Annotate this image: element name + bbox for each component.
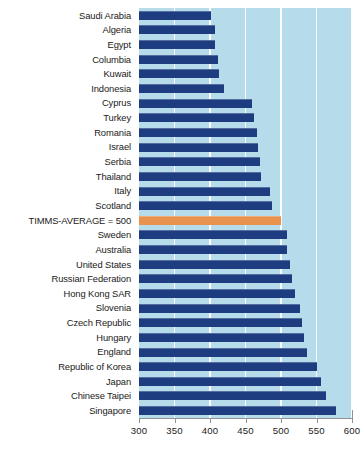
category-label: Israel bbox=[0, 140, 136, 155]
x-axis-tick bbox=[317, 418, 318, 423]
bar-row bbox=[139, 169, 352, 184]
bar-row bbox=[139, 52, 352, 67]
bar-row bbox=[139, 37, 352, 52]
category-label: Kuwait bbox=[0, 67, 136, 82]
category-label: Japan bbox=[0, 374, 136, 389]
category-label: Hungary bbox=[0, 330, 136, 345]
bar bbox=[139, 172, 261, 181]
bar-row bbox=[139, 67, 352, 82]
x-axis-tick-label: 500 bbox=[273, 425, 289, 436]
category-label: Slovenia bbox=[0, 301, 136, 316]
bar bbox=[139, 40, 215, 49]
bar-row bbox=[139, 301, 352, 316]
category-label: Italy bbox=[0, 184, 136, 199]
category-label: Chinese Taipei bbox=[0, 389, 136, 404]
bar-row bbox=[139, 228, 352, 243]
bar-row bbox=[139, 110, 352, 125]
bar bbox=[139, 230, 287, 239]
category-label: England bbox=[0, 345, 136, 360]
x-axis-tick-label: 300 bbox=[131, 425, 147, 436]
bar bbox=[139, 406, 336, 415]
x-axis-tick-label: 350 bbox=[166, 425, 182, 436]
bar-row bbox=[139, 403, 352, 418]
bar bbox=[139, 69, 219, 78]
bar-row bbox=[139, 389, 352, 404]
category-label: Singapore bbox=[0, 403, 136, 418]
bar-row bbox=[139, 330, 352, 345]
bar bbox=[139, 25, 215, 34]
category-label: Hong Kong SAR bbox=[0, 286, 136, 301]
bar bbox=[139, 84, 224, 93]
bar-row bbox=[139, 286, 352, 301]
x-axis-tick bbox=[175, 418, 176, 423]
bar-row bbox=[139, 198, 352, 213]
bar bbox=[139, 391, 326, 400]
bar bbox=[139, 245, 287, 254]
category-label: Turkey bbox=[0, 110, 136, 125]
category-axis-labels: Saudi ArabiaAlgeriaEgyptColumbiaKuwaitIn… bbox=[0, 8, 136, 418]
category-label: Columbia bbox=[0, 52, 136, 67]
x-axis-tick-label: 450 bbox=[237, 425, 253, 436]
bar bbox=[139, 55, 218, 64]
bar bbox=[139, 289, 295, 298]
category-label: Saudi Arabia bbox=[0, 8, 136, 23]
bar bbox=[139, 274, 292, 283]
bar bbox=[139, 304, 300, 313]
bar-row bbox=[139, 359, 352, 374]
bar-series bbox=[139, 8, 352, 418]
bar-row bbox=[139, 154, 352, 169]
bar-row bbox=[139, 125, 352, 140]
bar bbox=[139, 157, 260, 166]
bar-row bbox=[139, 272, 352, 287]
category-label: Serbia bbox=[0, 154, 136, 169]
bar bbox=[139, 143, 258, 152]
category-label: United States bbox=[0, 257, 136, 272]
bar-row bbox=[139, 140, 352, 155]
x-axis-tick-label: 400 bbox=[202, 425, 218, 436]
category-label: Australia bbox=[0, 242, 136, 257]
category-label: Scotland bbox=[0, 198, 136, 213]
category-label: Romania bbox=[0, 125, 136, 140]
bar bbox=[139, 260, 290, 269]
x-axis-tick bbox=[246, 418, 247, 423]
category-label: Thailand bbox=[0, 169, 136, 184]
bar-row bbox=[139, 184, 352, 199]
bar-row bbox=[139, 257, 352, 272]
bar-row bbox=[139, 23, 352, 38]
bar-row bbox=[139, 81, 352, 96]
bar bbox=[139, 318, 302, 327]
plot-area bbox=[139, 8, 352, 418]
bar bbox=[139, 187, 270, 196]
category-label: Russian Federation bbox=[0, 272, 136, 287]
bar-row bbox=[139, 96, 352, 111]
bar-row bbox=[139, 374, 352, 389]
category-label-average: TIMMS-AVERAGE = 500 bbox=[0, 213, 136, 228]
category-label: Sweden bbox=[0, 228, 136, 243]
bar-row bbox=[139, 8, 352, 23]
x-axis-tick bbox=[352, 418, 353, 423]
bar bbox=[139, 128, 257, 137]
bar-average bbox=[139, 216, 281, 225]
x-axis-ticks bbox=[139, 418, 352, 424]
bar-row bbox=[139, 213, 352, 228]
x-axis-tick bbox=[210, 418, 211, 423]
x-axis-tick bbox=[139, 418, 140, 423]
bar bbox=[139, 348, 307, 357]
x-axis-tick bbox=[281, 418, 282, 423]
bar bbox=[139, 11, 211, 20]
category-label: Algeria bbox=[0, 23, 136, 38]
timss-bar-chart: Saudi ArabiaAlgeriaEgyptColumbiaKuwaitIn… bbox=[0, 0, 364, 451]
category-label: Czech Republic bbox=[0, 315, 136, 330]
bar bbox=[139, 201, 272, 210]
category-label: Cyprus bbox=[0, 96, 136, 111]
bar-row bbox=[139, 345, 352, 360]
bar-row bbox=[139, 242, 352, 257]
bar bbox=[139, 377, 321, 386]
x-axis-tick-label: 550 bbox=[308, 425, 324, 436]
x-axis-tick-labels: 300350400450500550600 bbox=[0, 425, 364, 443]
bar-row bbox=[139, 315, 352, 330]
category-label: Republic of Korea bbox=[0, 359, 136, 374]
bar bbox=[139, 99, 252, 108]
bar bbox=[139, 113, 254, 122]
category-label: Indonesia bbox=[0, 81, 136, 96]
